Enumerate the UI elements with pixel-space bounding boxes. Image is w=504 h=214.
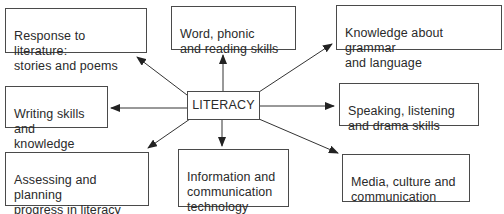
node-response-to-literature: Response to literature: stories and poem… <box>5 8 147 53</box>
node-label: Speaking, listening and drama skills <box>348 104 455 133</box>
node-grammar-language: Knowledge about grammar and language <box>336 5 502 50</box>
node-label: Word, phonic and reading skills <box>180 27 278 56</box>
literacy-diagram: Response to literature: stories and poem… <box>0 0 504 214</box>
center-label: LITERACY <box>192 98 255 113</box>
arrow-to-response <box>137 57 187 95</box>
node-assessing-planning: Assessing and planning progress in liter… <box>5 152 149 206</box>
arrow-to-media <box>259 119 338 153</box>
node-label: Media, culture and communication <box>351 175 456 204</box>
node-word-phonic-reading: Word, phonic and reading skills <box>171 6 296 50</box>
center-node-literacy: LITERACY <box>187 91 260 120</box>
node-media-culture: Media, culture and communication <box>342 154 470 202</box>
node-ict: Information and communication technology <box>178 149 289 207</box>
arrow-to-assessing <box>148 119 190 148</box>
node-label: Assessing and planning progress in liter… <box>14 173 121 214</box>
node-label: Response to literature: stories and poem… <box>14 29 118 73</box>
node-speaking-listening-drama: Speaking, listening and drama skills <box>339 83 479 126</box>
node-writing-skills: Writing skills and knowledge <box>5 86 108 128</box>
